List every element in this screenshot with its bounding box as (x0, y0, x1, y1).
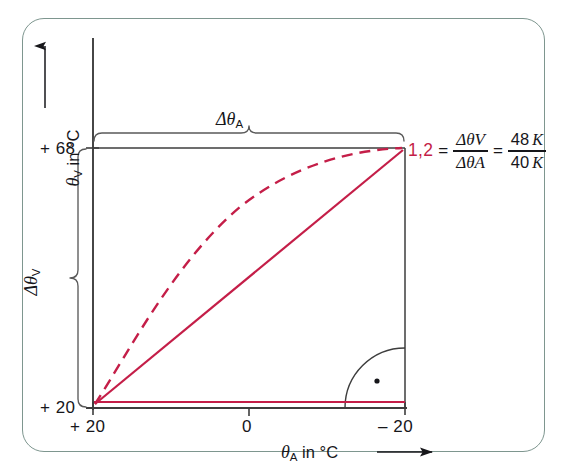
numerator-number: 48 (511, 130, 529, 148)
numerator-unit: K (532, 131, 543, 148)
x-axis-tick-label-zero: 0 (242, 418, 252, 435)
x-axis-tick-label-plus20: + 20 (70, 418, 106, 435)
denominator-subscript: A (475, 153, 485, 172)
x-axis-subscript: A (290, 451, 298, 463)
delta-theta-v-subscript: V (30, 268, 42, 276)
y-axis-title: θV in °C (64, 78, 84, 238)
heating-curve-figure: θV in °C θA in °C + 68 + 20 + 20 0 – 20 … (0, 0, 568, 475)
right-angle-arc (345, 348, 405, 408)
x-axis-symbol: θ (281, 442, 290, 462)
delta-theta-a-brace (94, 126, 404, 141)
fraction-denominator-dta: ΔθA (453, 152, 488, 173)
formula-equals-1: = (438, 141, 448, 161)
y-axis-subscript: V (72, 170, 84, 178)
x-axis-tick-label-minus20: – 20 (378, 418, 413, 435)
fraction-numerator-dtv: ΔθV (453, 129, 488, 150)
denominator-number: 40 (511, 153, 529, 171)
y-axis-tick-label-68: + 68 (40, 140, 76, 157)
delta-theta-v-symbol: Δθ (21, 276, 41, 295)
denominator-unit: K (532, 154, 543, 171)
fraction-denominator-40k: 40K (508, 152, 546, 173)
delta-theta-v-label: ΔθV (22, 247, 42, 317)
gradient-value: 1,2 (408, 140, 433, 161)
y-axis-tick-label-20: + 20 (40, 399, 76, 416)
numerator-symbol: Δθ (456, 130, 474, 149)
gradient-formula: 1,2 = ΔθV ΔθA = 48K 40K (408, 129, 546, 173)
delta-ratio-fraction: ΔθV ΔθA (453, 129, 488, 173)
y-axis-symbol: θ (63, 178, 83, 187)
diagram-vector-layer (0, 0, 568, 475)
right-angle-dot (374, 378, 379, 383)
x-axis-unit: in °C (302, 443, 338, 461)
denominator-symbol: Δθ (456, 153, 474, 172)
fraction-numerator-48k: 48K (508, 129, 546, 150)
kelvin-ratio-fraction: 48K 40K (508, 129, 546, 172)
delta-theta-a-label: ΔθA (216, 110, 243, 130)
numerator-subscript: V (475, 130, 485, 149)
delta-theta-a-symbol: Δθ (216, 109, 235, 129)
formula-equals-2: = (493, 141, 503, 161)
heating-curve-straight (95, 150, 403, 404)
delta-theta-a-subscript: A (235, 118, 243, 130)
x-axis-title: θA in °C (281, 443, 338, 463)
